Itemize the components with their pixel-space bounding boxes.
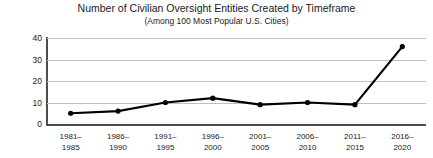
x-tick-label-line1: 2001–	[237, 131, 284, 142]
y-tick-label: 30	[2, 56, 42, 65]
x-tick-label-line2: 2015	[331, 142, 378, 153]
series-polyline	[71, 47, 403, 114]
chart-title: Number of Civilian Oversight Entities Cr…	[0, 2, 433, 15]
x-tick-label-line1: 1991–	[142, 131, 189, 142]
x-tick-label-line1: 1981–	[47, 131, 94, 142]
x-tick-label-line1: 2011–	[331, 131, 378, 142]
data-point	[258, 102, 263, 107]
x-tick-label-line2: 2000	[189, 142, 236, 153]
data-point	[400, 44, 405, 49]
x-tick-label: 2006–2010	[284, 131, 331, 157]
x-tick-label: 2011–2015	[331, 131, 378, 157]
data-point	[210, 96, 215, 101]
x-tick-label-line2: 1985	[47, 142, 94, 153]
chart-subtitle: (Among 100 Most Popular U.S. Cities)	[0, 15, 433, 27]
y-tick-label: 20	[2, 77, 42, 86]
x-tick-label-line2: 2010	[284, 142, 331, 153]
x-tick-label: 1996–2000	[189, 131, 236, 157]
x-tick-label-line2: 1995	[142, 142, 189, 153]
x-tick-label: 1991–1995	[142, 131, 189, 157]
data-point	[305, 100, 310, 105]
x-tick-label-line1: 2006–	[284, 131, 331, 142]
series-line-chart	[47, 38, 426, 124]
y-tick-label: 40	[2, 34, 42, 43]
x-tick-label-line2: 2020	[379, 142, 426, 153]
data-point	[352, 102, 357, 107]
x-tick-label: 2016–2020	[379, 131, 426, 157]
x-tick-label-line1: 1996–	[189, 131, 236, 142]
x-tick-label-line2: 2005	[237, 142, 284, 153]
chart-container: Number of Civilian Oversight Entities Cr…	[0, 0, 433, 158]
x-tick-label-line2: 1990	[94, 142, 141, 153]
x-tick-label-line1: 2016–	[379, 131, 426, 142]
x-tick-label: 1981–1985	[47, 131, 94, 157]
data-point	[163, 100, 168, 105]
x-tick-label: 2001–2005	[237, 131, 284, 157]
data-point	[68, 111, 73, 116]
gridline	[47, 124, 426, 125]
chart-header: Number of Civilian Oversight Entities Cr…	[0, 2, 433, 27]
data-point	[115, 109, 120, 114]
y-axis-tick-labels: 403020100	[0, 38, 42, 124]
series-markers	[68, 44, 405, 116]
x-axis-tick-labels: 1981–19851986–19901991–19951996–20002001…	[47, 131, 426, 157]
y-tick-label: 10	[2, 99, 42, 108]
x-tick-label: 1986–1990	[94, 131, 141, 157]
y-tick-label: 0	[2, 120, 42, 129]
x-tick-label-line1: 1986–	[94, 131, 141, 142]
plot-area	[47, 38, 426, 124]
